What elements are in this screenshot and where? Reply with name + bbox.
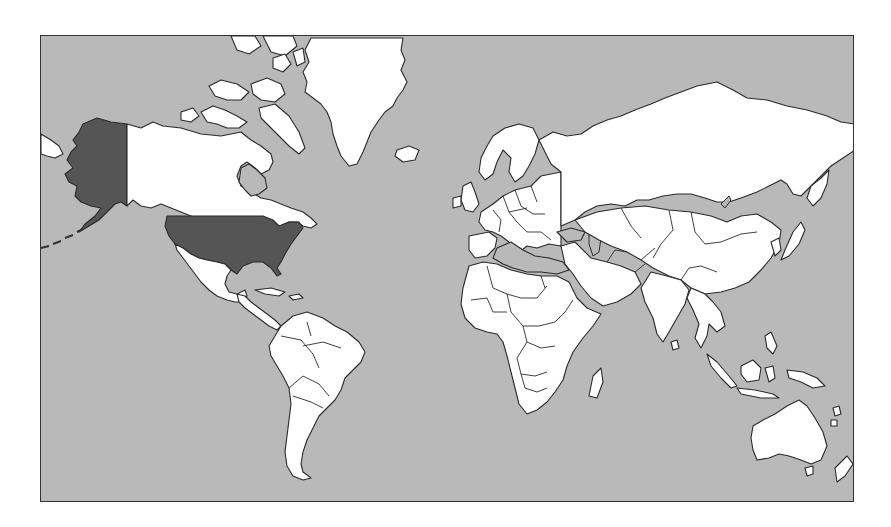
ireland: [453, 196, 461, 208]
tasmania: [805, 466, 813, 476]
pacific-island-2: [831, 420, 837, 426]
world-map: [41, 36, 854, 502]
world-map-frame: [40, 35, 854, 502]
pacific-island-1: [833, 406, 841, 416]
sri-lanka: [671, 340, 679, 350]
